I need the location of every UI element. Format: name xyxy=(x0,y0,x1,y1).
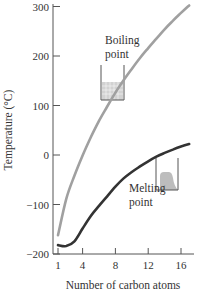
x-axis-title: Number of carbon atoms xyxy=(66,279,181,291)
y-tick-label: 300 xyxy=(33,1,50,13)
x-tick-label: 8 xyxy=(113,259,119,271)
y-tick-label: 200 xyxy=(33,50,50,62)
y-ticks: 3002001000−100−200 xyxy=(26,1,60,261)
y-tick-label: −100 xyxy=(26,199,49,211)
x-tick-label: 12 xyxy=(143,259,154,271)
y-tick-label: 100 xyxy=(33,100,50,112)
melting-point-label-line1: Melting xyxy=(129,182,166,195)
x-ticks: 1481216 xyxy=(55,248,187,271)
y-tick-label: −200 xyxy=(26,248,49,260)
melting-point-line xyxy=(58,144,189,246)
chart: 3002001000−100−200 1481216 Temperature (… xyxy=(0,0,208,302)
boiling-point-label-line2: point xyxy=(105,48,129,61)
x-tick-label: 16 xyxy=(176,259,188,271)
y-axis-title: Temperature (°C) xyxy=(2,89,15,170)
x-tick-label: 4 xyxy=(80,259,86,271)
x-tick-label: 1 xyxy=(55,259,61,271)
y-tick-label: 0 xyxy=(44,149,50,161)
boiling-point-label-line1: Boiling xyxy=(105,34,140,47)
melting-point-label-line2: point xyxy=(129,196,153,209)
